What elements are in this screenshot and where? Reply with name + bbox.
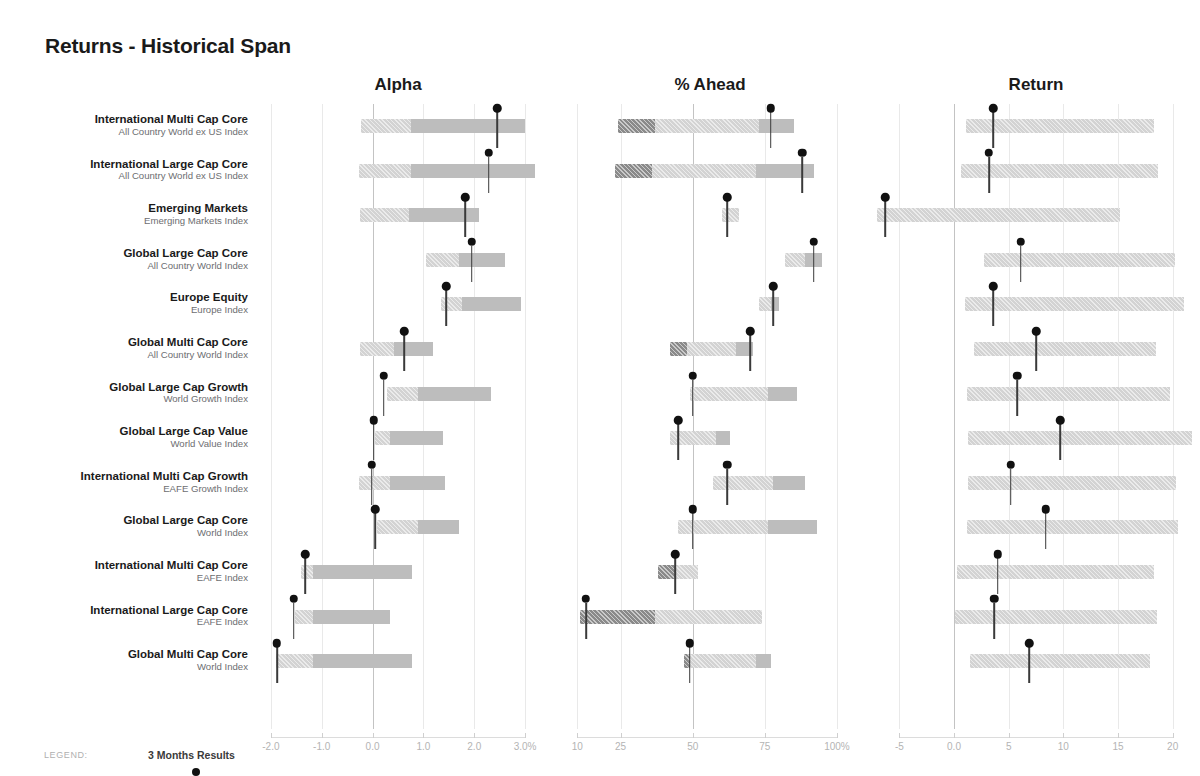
marker-stem	[993, 290, 995, 326]
marker-stem	[1045, 513, 1047, 549]
axis-tick	[1173, 733, 1174, 738]
bar-row	[560, 372, 860, 416]
marker-dot[interactable]	[989, 282, 998, 291]
bar-row	[872, 282, 1200, 326]
marker-dot[interactable]	[881, 193, 890, 202]
marker-dot[interactable]	[686, 639, 695, 648]
panel-alpha: Alpha-2.0-1.00.01.02.03.0%	[248, 0, 548, 776]
marker-dot[interactable]	[461, 193, 470, 202]
bar-row	[872, 193, 1200, 237]
axis-tick	[837, 733, 838, 738]
marker-dot[interactable]	[273, 639, 282, 648]
bar-row	[560, 193, 860, 237]
bar-row	[248, 193, 548, 237]
axis-tick	[474, 733, 475, 738]
marker-dot[interactable]	[371, 505, 380, 514]
x-axis: -2.0-1.00.01.02.03.0%	[248, 729, 548, 769]
marker-dot[interactable]	[989, 104, 998, 113]
marker-dot[interactable]	[746, 327, 755, 336]
marker-dot[interactable]	[367, 461, 376, 470]
marker-dot[interactable]	[1007, 461, 1016, 470]
marker-dot[interactable]	[582, 594, 591, 603]
row-label-index: EAFE Index	[0, 617, 248, 628]
legend-series-name: 3 Months Results	[148, 749, 235, 761]
bar-row	[872, 149, 1200, 193]
marker-dot[interactable]	[671, 550, 680, 559]
marker-dot[interactable]	[688, 371, 697, 380]
marker-dot[interactable]	[1013, 371, 1022, 380]
row-label-name: Global Large Cap Core	[0, 247, 248, 260]
row-label: International Large Cap CoreAll Country …	[0, 158, 248, 183]
span-segment-low	[375, 431, 390, 445]
marker-dot[interactable]	[1016, 238, 1025, 247]
plot-area	[248, 104, 548, 729]
marker-stem	[1059, 424, 1061, 460]
span-segment-high	[418, 520, 459, 534]
span-segment	[984, 253, 1175, 267]
axis-tick-label: 50	[687, 741, 698, 752]
marker-dot[interactable]	[798, 148, 807, 157]
marker-dot[interactable]	[484, 148, 493, 157]
span-segment	[966, 119, 1154, 133]
marker-dot[interactable]	[400, 327, 409, 336]
marker-dot[interactable]	[1025, 639, 1034, 648]
panel-title: % Ahead	[674, 75, 745, 95]
marker-dot[interactable]	[985, 148, 994, 157]
marker-dot[interactable]	[493, 104, 502, 113]
marker-dot[interactable]	[674, 416, 683, 425]
axis-tick-label: 1.0	[416, 741, 430, 752]
marker-dot[interactable]	[290, 594, 299, 603]
marker-dot[interactable]	[688, 505, 697, 514]
axis-tick-label: 20	[1167, 741, 1178, 752]
span-segment-high	[756, 654, 770, 668]
span-segment	[968, 476, 1176, 490]
marker-dot[interactable]	[723, 193, 732, 202]
marker-dot[interactable]	[1042, 505, 1051, 514]
marker-dot[interactable]	[990, 594, 999, 603]
axis-tick	[693, 733, 694, 738]
marker-stem	[689, 647, 691, 683]
marker-stem	[305, 558, 307, 594]
row-label: International Multi Cap CoreEAFE Index	[0, 559, 248, 584]
marker-stem	[373, 424, 375, 460]
span-segment-high	[459, 253, 505, 267]
bar-row	[560, 238, 860, 282]
marker-dot[interactable]	[369, 416, 378, 425]
marker-dot[interactable]	[810, 238, 819, 247]
marker-dot[interactable]	[442, 282, 451, 291]
marker-stem	[773, 290, 775, 326]
marker-dot[interactable]	[380, 371, 389, 380]
marker-dot[interactable]	[1032, 327, 1041, 336]
span-segment-high	[768, 387, 797, 401]
marker-stem	[677, 424, 679, 460]
marker-dot[interactable]	[723, 461, 732, 470]
bar-row	[872, 327, 1200, 371]
span-segment-low	[618, 119, 656, 133]
span-segment-high	[390, 476, 444, 490]
span-segment	[961, 164, 1159, 178]
span-segment-low	[360, 342, 394, 356]
marker-dot[interactable]	[1056, 416, 1065, 425]
marker-dot[interactable]	[467, 238, 476, 247]
marker-stem	[750, 335, 752, 371]
span-segment-high	[313, 654, 413, 668]
marker-stem	[727, 469, 729, 505]
bar-row	[560, 461, 860, 505]
plot-area	[872, 104, 1200, 729]
span-segment-high	[409, 208, 479, 222]
marker-stem	[383, 380, 385, 416]
row-label: International Multi Cap GrowthEAFE Growt…	[0, 470, 248, 495]
span-segment-high	[756, 164, 814, 178]
marker-dot[interactable]	[993, 550, 1002, 559]
marker-dot[interactable]	[769, 282, 778, 291]
marker-dot[interactable]	[301, 550, 310, 559]
row-label-name: International Multi Cap Growth	[0, 470, 248, 483]
span-segment-high	[759, 119, 794, 133]
bar-row	[560, 550, 860, 594]
axis-tick-label: -1.0	[313, 741, 330, 752]
marker-dot[interactable]	[766, 104, 775, 113]
bar-row	[248, 550, 548, 594]
span-segment-low	[295, 610, 312, 624]
bar-row	[872, 416, 1200, 460]
panel-title: Return	[1009, 75, 1064, 95]
